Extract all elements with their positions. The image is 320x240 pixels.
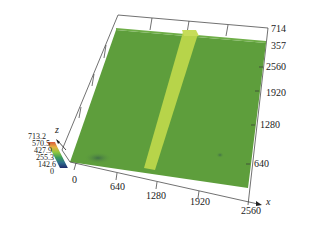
x-tick-1920: 1920	[190, 197, 210, 207]
z-tick-357: 357	[271, 41, 286, 51]
x-tick-640: 640	[110, 182, 125, 192]
x-tick-1280: 1280	[146, 191, 166, 201]
y-tick-1920: 1920	[266, 88, 286, 98]
x-tick-2560: 2560	[241, 206, 261, 216]
y-tick-1280: 1280	[260, 120, 280, 130]
x-tick-0: 0	[72, 175, 77, 185]
z-axis-label: z	[55, 124, 59, 135]
x-axis-label: x	[266, 196, 270, 207]
y-tick-2560: 2560	[266, 62, 286, 72]
y-tick-640: 640	[254, 159, 269, 169]
surface	[70, 28, 266, 188]
z-tick-714: 714	[271, 24, 286, 34]
colorbar-label-0: 0	[24, 168, 54, 176]
